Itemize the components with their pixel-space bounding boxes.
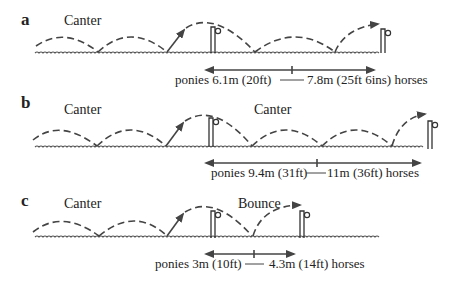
fence-icon [381,29,391,53]
jump-distance-diagram: a Canter ponies 6.1m (20ft) 7.8m (25ft 6… [0,0,461,291]
stride-arc [36,37,98,52]
stride-arc [98,37,167,52]
panel-letter-a: a [21,10,30,29]
stride-arc [322,130,392,146]
distance-right-label: 11m (36ft) horses [327,165,419,180]
fence-icon [211,211,221,238]
fence-icon [300,211,310,238]
ground-line [35,236,379,237]
gait-label-canter: Canter [64,102,102,117]
takeoff-arrow [167,214,183,236]
stride-arc [33,221,99,236]
fence-icon [211,27,221,53]
panel-c: c Canter Bounce ponies 3m (10ft) 4.3m (1… [21,191,379,271]
ground-line [35,52,379,53]
ground-line [35,146,423,147]
jump-arc [186,23,255,52]
panel-letter-c: c [21,191,29,210]
jump-arc [185,115,252,146]
panel-a: a Canter ponies 6.1m (20ft) 7.8m (25ft 6… [21,10,428,87]
distance-left-label: ponies 3m (10ft) [155,256,242,271]
jump-arc [392,114,425,146]
fence-icon [428,121,438,149]
stride-arc [255,37,335,52]
panel-letter-b: b [21,93,30,112]
distance-left-label: ponies 9.4m (31ft) [211,165,307,180]
gait-label-canter: Canter [64,196,102,211]
panel-b: b Canter Canter ponies 9.4m (31ft) 11m (… [21,93,438,180]
stride-arc [97,130,166,146]
gait-label-canter-2: Canter [254,102,292,117]
stride-arc [33,130,97,146]
jump-arc [185,207,252,236]
fence-icon [209,118,219,147]
distance-right-label: 7.8m (25ft 6ins) horses [307,72,428,87]
gait-label-bounce: Bounce [238,196,281,211]
stride-arc [252,130,322,146]
gait-label-canter: Canter [64,13,102,28]
jump-arc [335,24,378,52]
distance-left-label: ponies 6.1m (20ft) [175,72,271,87]
distance-right-label: 4.3m (14ft) horses [269,256,365,271]
stride-arc [99,221,167,236]
takeoff-arrow [167,30,184,52]
takeoff-arrow [166,123,183,146]
